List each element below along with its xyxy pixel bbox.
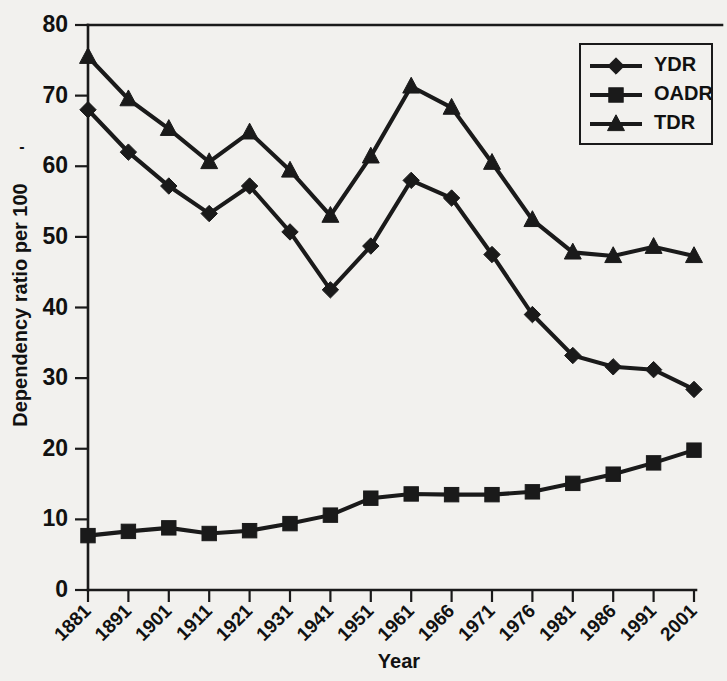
data-point-square — [444, 487, 458, 501]
data-point-square — [364, 491, 378, 505]
data-point-square — [687, 443, 701, 457]
legend-item-label: YDR — [654, 53, 697, 75]
x-axis-tick-label: 1891 — [90, 600, 135, 645]
x-axis-ticks — [88, 590, 694, 602]
x-axis-tick-labels: 1881189119011911192119311941195119611966… — [50, 600, 701, 645]
data-point-square — [242, 523, 256, 537]
data-point-square — [566, 476, 580, 490]
x-axis-tick-label: 1911 — [172, 600, 216, 644]
x-axis-tick-label: 1976 — [494, 600, 539, 645]
data-point-square — [404, 487, 418, 501]
x-axis-tick-label: 1951 — [333, 600, 378, 645]
data-point-diamond — [645, 361, 661, 377]
y-axis-tick-label: 30 — [42, 364, 68, 390]
y-axis-title: Dependency ratio per 100 — [9, 183, 31, 426]
x-axis-tick-label: 1921 — [212, 600, 257, 645]
series-polyline — [88, 110, 694, 390]
x-axis-tick-label: 1881 — [50, 600, 95, 645]
data-point-square — [81, 528, 95, 542]
data-point-square — [323, 508, 337, 522]
data-point-square — [485, 487, 499, 501]
y-axis-tick-label: 20 — [42, 435, 68, 461]
x-axis-tick-label: 1901 — [131, 600, 176, 645]
chart-canvas: 01020304050607080 1881189119011911192119… — [0, 0, 727, 681]
data-point-triangle — [241, 123, 258, 139]
y-axis-tick-label: 80 — [42, 11, 68, 37]
y-axis-tick-label: 40 — [42, 294, 68, 320]
x-axis-tick-label: 1941 — [292, 600, 337, 645]
y-axis-tick-label: 0 — [55, 576, 68, 602]
data-point-square — [606, 467, 620, 481]
data-point-square — [525, 485, 539, 499]
y-axis-tick-label: 60 — [42, 152, 68, 178]
data-point-triangle — [645, 238, 662, 254]
series-ydr — [80, 102, 702, 398]
data-point-square — [162, 521, 176, 535]
x-axis-tick-label: 1981 — [535, 600, 580, 645]
y-axis-tick-label: 50 — [42, 223, 68, 249]
x-axis-tick-label: 1931 — [252, 600, 297, 645]
x-axis-title: Year — [378, 650, 420, 672]
x-axis-tick-label: 1986 — [575, 600, 620, 645]
series-polyline — [88, 450, 694, 535]
series-oadr — [81, 443, 701, 543]
y-axis-tick-label: 70 — [42, 82, 68, 108]
x-axis-tick-label: 1991 — [616, 600, 661, 645]
x-axis-tick-label: 1961 — [373, 600, 418, 645]
data-point-square — [202, 526, 216, 540]
y-axis-tick-labels: 01020304050607080 — [42, 11, 68, 602]
y-axis-title-superscript: - — [19, 138, 24, 155]
x-axis-tick-label: 1971 — [454, 600, 499, 645]
chart-legend[interactable]: YDROADRTDR — [580, 44, 713, 144]
data-point-triangle — [80, 48, 97, 64]
data-point-square — [609, 88, 623, 102]
data-point-square — [283, 516, 297, 530]
x-axis-tick-label: 2001 — [656, 600, 701, 645]
y-axis-title-group: Dependency ratio per 100 - — [9, 138, 31, 427]
legend-item-label: TDR — [654, 111, 696, 133]
data-point-square — [646, 456, 660, 470]
data-point-diamond — [605, 359, 621, 375]
x-axis-tick-label: 1966 — [414, 600, 459, 645]
data-point-diamond — [686, 381, 702, 397]
legend-item-label: OADR — [654, 82, 713, 104]
y-axis-tick-label: 10 — [42, 505, 68, 531]
dependency-ratio-chart: 01020304050607080 1881189119011911192119… — [0, 0, 727, 681]
data-point-triangle — [403, 77, 420, 93]
data-point-square — [121, 524, 135, 538]
